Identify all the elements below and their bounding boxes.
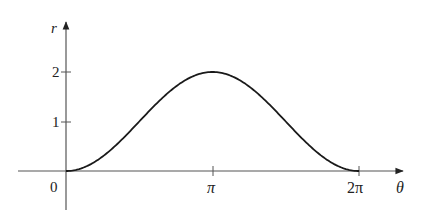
x-tick-label-2pi: 2π [347, 179, 363, 196]
y-tick-label-1: 1 [52, 114, 60, 130]
polar-function-plot: r 2 1 0 π 2π θ [0, 0, 423, 210]
x-axis-label: θ [396, 179, 404, 196]
y-axis-label: r [51, 20, 57, 36]
y-tick-label-2: 2 [52, 64, 60, 80]
origin-label: 0 [50, 179, 58, 195]
curve-series [66, 72, 359, 171]
x-tick-label-pi: π [207, 179, 216, 196]
